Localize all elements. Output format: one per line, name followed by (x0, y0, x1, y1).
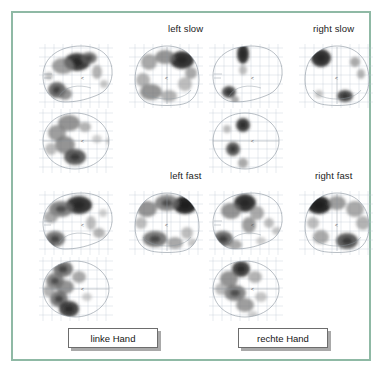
glass-brain-left-slow-sagittal: < (35, 40, 115, 112)
svg-text:<: < (251, 222, 254, 228)
panel-title-right-slow: right slow (313, 23, 354, 34)
svg-text:<: < (165, 222, 168, 228)
glass-brain-right-slow-transverse: < (205, 105, 285, 177)
glass-brain-left-fast-coronal: < (125, 187, 205, 259)
svg-text:<: < (81, 286, 84, 292)
caption-box-linke-hand: linke Hand (68, 328, 158, 348)
svg-text:<: < (81, 138, 84, 144)
figure-frame: left slow right slow left fast right fas… (11, 11, 371, 361)
svg-text:<: < (335, 75, 338, 81)
svg-text:<: < (335, 222, 338, 228)
svg-text:<: < (251, 75, 254, 81)
glass-brain-left-slow-coronal: < (125, 40, 205, 112)
svg-text:<: < (165, 75, 168, 81)
glass-brain-right-slow-coronal: < (295, 40, 375, 112)
glass-brain-left-slow-transverse: < (35, 105, 115, 177)
glass-brain-right-fast-transverse: < (205, 253, 285, 325)
glass-brain-right-fast-sagittal: < (205, 187, 285, 259)
panel-title-left-fast: left fast (170, 170, 202, 181)
svg-text:<: < (251, 286, 254, 292)
caption-box-rechte-hand: rechte Hand (238, 328, 328, 348)
glass-brain-left-fast-transverse: < (35, 253, 115, 325)
svg-text:<: < (81, 75, 84, 81)
panel-title-right-fast: right fast (315, 170, 352, 181)
glass-brain-left-fast-sagittal: < (35, 187, 115, 259)
svg-text:<: < (251, 138, 254, 144)
glass-brain-right-slow-sagittal: < (205, 40, 285, 112)
glass-brain-right-fast-coronal: < (295, 187, 375, 259)
panel-title-left-slow: left slow (168, 23, 203, 34)
svg-text:<: < (81, 222, 84, 228)
